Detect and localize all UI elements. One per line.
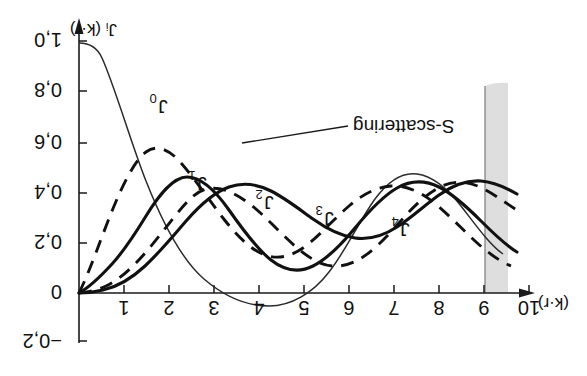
x-tick-label-1: 1 bbox=[118, 297, 129, 319]
x-tick-label-8: 8 bbox=[433, 297, 444, 319]
svg-text:J: J bbox=[324, 208, 334, 229]
svg-text:4: 4 bbox=[391, 214, 398, 229]
y-tick-label-0: 0 bbox=[51, 281, 62, 303]
curve-j2 bbox=[79, 177, 517, 293]
x-tick-label-7: 7 bbox=[388, 297, 399, 319]
curve-j4 bbox=[79, 181, 517, 293]
s-scattering-leader-line bbox=[242, 126, 348, 143]
svg-text:J: J bbox=[264, 192, 274, 213]
svg-text:J: J bbox=[158, 96, 168, 117]
x-axis-tick-labels: 1 2 3 4 5 6 7 8 9 10 bbox=[118, 297, 540, 319]
y-tick-label-08: 0,8 bbox=[34, 79, 62, 101]
x-axis-ticks bbox=[124, 285, 529, 293]
svg-text:J: J bbox=[400, 219, 410, 240]
x-tick-label-9: 9 bbox=[478, 297, 489, 319]
curve-label-j3: J 3 bbox=[315, 203, 333, 229]
x-tick-label-2: 2 bbox=[163, 297, 174, 319]
svg-text:3: 3 bbox=[315, 203, 322, 218]
curve-label-j0: J 0 bbox=[149, 91, 167, 117]
x-axis-title: (k·r) bbox=[538, 294, 569, 313]
curve-label-j1: J 1 bbox=[188, 168, 206, 194]
x-tick-label-6: 6 bbox=[343, 297, 354, 319]
x-tick-label-5: 5 bbox=[298, 297, 309, 319]
y-tick-label-06: 0,6 bbox=[34, 131, 62, 153]
svg-text:2: 2 bbox=[255, 187, 262, 202]
y-axis-ticks bbox=[79, 41, 87, 341]
y-axis-title: Jᵢ (k·r) bbox=[70, 20, 117, 39]
y-tick-label-04: 0,4 bbox=[34, 181, 62, 203]
x-tick-label-3: 3 bbox=[208, 297, 219, 319]
x-tick-label-10: 10 bbox=[518, 297, 540, 319]
bessel-function-chart: 1 2 3 4 5 6 7 8 9 10 −0,2 0 0,2 0,4 0,6 … bbox=[0, 0, 587, 376]
y-tick-label-02: 0,2 bbox=[34, 231, 62, 253]
svg-text:1: 1 bbox=[188, 168, 195, 183]
x-tick-label-4: 4 bbox=[253, 297, 264, 319]
curve-label-j4: J 4 bbox=[391, 214, 409, 240]
svg-text:0: 0 bbox=[149, 91, 156, 106]
y-axis-tick-labels: −0,2 0 0,2 0,4 0,6 0,8 1,0 bbox=[23, 29, 62, 352]
s-scattering-label: S-scattering bbox=[353, 116, 454, 137]
y-tick-label-neg02: −0,2 bbox=[23, 330, 62, 352]
curve-j3 bbox=[79, 182, 518, 293]
y-tick-label-10: 1,0 bbox=[34, 29, 62, 51]
svg-text:J: J bbox=[197, 173, 207, 194]
